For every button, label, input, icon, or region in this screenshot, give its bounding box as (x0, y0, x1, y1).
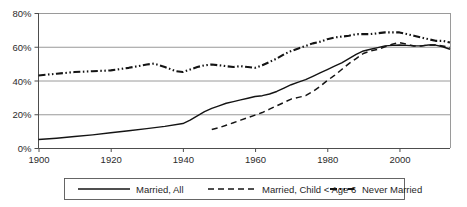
legend-label-0: Married, All (136, 184, 184, 195)
chart-background (0, 0, 467, 207)
chart-container: 0%20%40%60%80% 190019201940196019802000 … (0, 0, 467, 207)
y-tick-label-60: 60% (12, 42, 32, 53)
y-tick-label-0: 0% (18, 143, 32, 154)
x-tick-label-1940: 1940 (173, 154, 194, 165)
line-chart: 0%20%40%60%80% 190019201940196019802000 … (0, 0, 467, 207)
x-tick-label-1960: 1960 (245, 154, 266, 165)
y-tick-label-80: 80% (12, 8, 32, 19)
x-tick-label-1980: 1980 (317, 154, 338, 165)
legend-label-2: Never Married (362, 184, 422, 195)
x-tick-label-1920: 1920 (101, 154, 122, 165)
x-tick-label-2000: 2000 (389, 154, 410, 165)
x-tick-label-1900: 1900 (28, 154, 49, 165)
legend-label-1: Married, Child < Age 6 (262, 184, 356, 195)
y-tick-label-40: 40% (12, 76, 32, 87)
y-tick-label-20: 20% (12, 109, 32, 120)
